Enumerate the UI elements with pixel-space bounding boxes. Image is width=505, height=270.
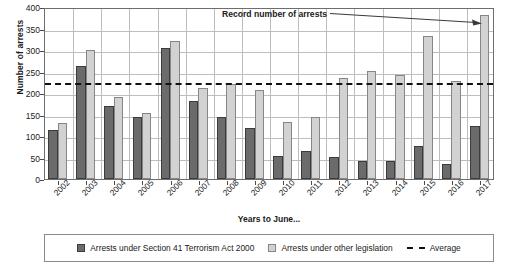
legend-item-average: Average <box>407 243 461 253</box>
y-tick-label: 50 <box>6 154 40 164</box>
legend-swatch-light-square-icon <box>268 244 276 252</box>
bar <box>470 126 479 179</box>
x-tick-mark <box>86 181 87 185</box>
y-tick-label: 250 <box>6 68 40 78</box>
x-tick-mark <box>199 181 200 185</box>
bar <box>48 130 57 179</box>
bar <box>311 117 320 179</box>
x-tick-label: 2016 <box>445 177 465 197</box>
bar <box>142 113 151 179</box>
plot-area <box>44 8 494 180</box>
x-tick-mark <box>171 181 172 185</box>
bars-layer <box>45 9 493 179</box>
x-tick-label: 2014 <box>389 177 409 197</box>
y-tick-label: 300 <box>6 46 40 56</box>
y-tick-label: 150 <box>6 111 40 121</box>
x-tick-label: 2013 <box>361 177 381 197</box>
bar <box>104 106 113 179</box>
bar <box>255 90 264 179</box>
y-tick-label: 350 <box>6 25 40 35</box>
bar <box>86 50 95 179</box>
x-tick-label: 2011 <box>305 178 325 198</box>
bar <box>329 157 338 179</box>
average-reference-line <box>45 83 493 85</box>
bar <box>58 123 67 179</box>
bar <box>133 117 142 179</box>
x-tick-mark <box>58 181 59 185</box>
bar <box>283 122 292 179</box>
y-tick-label: 100 <box>6 132 40 142</box>
y-tick-label: 0 <box>6 175 40 185</box>
x-tick-label: 2009 <box>248 177 268 197</box>
bar <box>395 75 404 179</box>
x-tick-label: 2006 <box>164 177 184 197</box>
bar <box>451 81 460 179</box>
x-tick-mark <box>339 181 340 185</box>
x-tick-mark <box>396 181 397 185</box>
bar-chart: Number of arrests 0501001502002503003504… <box>0 0 505 270</box>
x-tick-label: 2007 <box>192 177 212 197</box>
x-tick-mark <box>283 181 284 185</box>
bar <box>114 97 123 179</box>
x-tick-label: 2012 <box>333 177 353 197</box>
record-annotation-label: Record number of arrests <box>222 9 327 19</box>
bar <box>367 71 376 179</box>
x-axis-title: Years to June... <box>44 214 494 224</box>
legend-item-other-legislation: Arrests under other legislation <box>268 243 392 253</box>
x-tick-label: 2004 <box>108 177 128 197</box>
y-axis-tick-labels: 050100150200250300350400 <box>0 8 40 180</box>
x-tick-label: 2008 <box>220 177 240 197</box>
x-tick-label: 2010 <box>277 177 297 197</box>
x-tick-label: 2003 <box>80 177 100 197</box>
bar <box>442 164 451 179</box>
bar <box>480 15 489 179</box>
bar <box>245 128 254 179</box>
x-tick-mark <box>311 181 312 185</box>
x-tick-mark <box>255 181 256 185</box>
x-tick-label: 2015 <box>417 177 437 197</box>
bar <box>386 161 395 179</box>
legend-label-section41: Arrests under Section 41 Terrorism Act 2… <box>90 243 254 253</box>
legend-label-average: Average <box>430 243 461 253</box>
x-tick-mark <box>367 181 368 185</box>
x-tick-mark <box>424 181 425 185</box>
y-tick-label: 200 <box>6 89 40 99</box>
legend-label-other-legislation: Arrests under other legislation <box>281 243 392 253</box>
legend-item-section41: Arrests under Section 41 Terrorism Act 2… <box>77 243 254 253</box>
y-tick-label: 400 <box>6 3 40 13</box>
x-tick-mark <box>452 181 453 185</box>
x-tick-label: 2002 <box>52 177 72 197</box>
x-tick-mark <box>114 181 115 185</box>
x-tick-mark <box>227 181 228 185</box>
bar <box>358 161 367 179</box>
chart-legend: Arrests under Section 41 Terrorism Act 2… <box>44 234 494 262</box>
bar <box>226 84 235 179</box>
bar <box>273 156 282 179</box>
bar <box>161 48 170 179</box>
bar <box>198 88 207 179</box>
bar <box>170 41 179 179</box>
x-tick-mark <box>480 181 481 185</box>
bar <box>189 101 198 179</box>
legend-swatch-dark-square-icon <box>77 244 85 252</box>
bar <box>339 78 348 179</box>
x-tick-mark <box>142 181 143 185</box>
bar <box>423 36 432 179</box>
legend-swatch-dashed-line-icon <box>407 247 425 249</box>
bar <box>217 117 226 179</box>
bar <box>301 151 310 179</box>
bar <box>414 146 423 179</box>
x-tick-label: 2017 <box>473 177 493 197</box>
x-tick-label: 2005 <box>136 177 156 197</box>
